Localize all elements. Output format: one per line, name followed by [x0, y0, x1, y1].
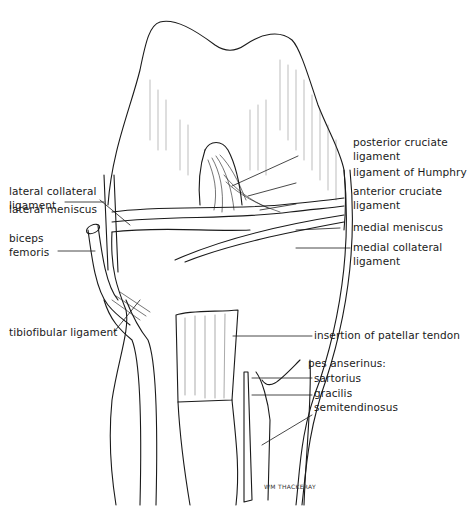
label-medial-collateral-ligament: medial collateral ligament — [353, 240, 442, 268]
leader-tibiofibular — [114, 300, 140, 332]
pes-anserinus-tendon — [244, 372, 252, 502]
label-lateral-meniscus: lateral meniscus — [9, 202, 97, 216]
label-ligament-of-humphry: ligament of Humphry — [353, 165, 467, 179]
tibia-outline — [110, 232, 126, 505]
label-pes-anserinus: pes anserinus: — [308, 356, 386, 370]
label-biceps-femoris: biceps femoris — [9, 231, 49, 259]
leader-posterior-cruciate — [232, 156, 298, 186]
leader-medial-meniscus — [296, 228, 340, 230]
lateral-collateral-band — [104, 175, 108, 270]
femur-outline — [108, 21, 346, 230]
patellar-tendon — [176, 310, 238, 402]
label-tibiofibular-ligament: tibiofibular ligament — [9, 325, 117, 339]
label-gracilis: gracilis — [314, 386, 352, 400]
leader-humphry — [248, 183, 296, 196]
label-semitendinosus: semitendinosus — [314, 400, 398, 414]
artist-signature: WM THACKERAY — [264, 483, 316, 490]
label-insertion-of-patellar-tendon: insertion of patellar tendon — [314, 328, 460, 342]
label-posterior-cruciate-ligament: posterior cruciate ligament — [353, 135, 448, 163]
label-medial-meniscus: medial meniscus — [353, 220, 443, 234]
label-anterior-cruciate-ligament: anterior cruciate ligament — [353, 184, 442, 212]
label-sartorius: sartorius — [314, 371, 361, 385]
biceps-femoris-tendon — [88, 230, 130, 325]
